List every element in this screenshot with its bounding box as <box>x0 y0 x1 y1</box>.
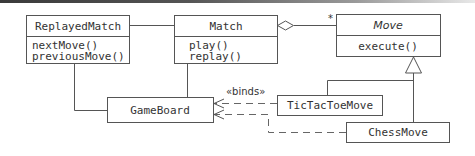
method: execute() <box>358 40 418 53</box>
class-name: ReplayedMatch <box>35 20 121 33</box>
binds-dependency-chessmove <box>214 115 346 133</box>
generalization-tictactoe <box>328 81 414 96</box>
method: replay() <box>189 50 242 63</box>
class-gameboard: GameBoard <box>108 98 214 123</box>
class-match: Match play() replay() <box>175 16 278 64</box>
class-tictactoemove: TicTacToeMove <box>278 96 383 116</box>
class-name: GameBoard <box>130 104 190 117</box>
class-name: Match <box>209 20 242 33</box>
uml-diagram: * «binds» ReplayedMatch nextMove() previ… <box>0 0 475 156</box>
association-replayedmatch-gameboard <box>75 64 108 111</box>
aggregation-diamond-icon <box>278 21 294 30</box>
class-name: Move <box>373 19 403 32</box>
class-move: Move execute() <box>337 15 441 57</box>
binds-stereotype-label: «binds» <box>226 86 265 97</box>
class-replayedmatch: ReplayedMatch nextMove() previousMove() <box>27 16 130 64</box>
method: previousMove() <box>32 50 125 63</box>
multiplicity-label: * <box>328 13 333 24</box>
class-chessmove: ChessMove <box>347 123 450 143</box>
class-name: ChessMove <box>368 126 428 139</box>
class-name: TicTacToeMove <box>287 99 373 112</box>
generalization-triangle-icon <box>406 57 422 73</box>
